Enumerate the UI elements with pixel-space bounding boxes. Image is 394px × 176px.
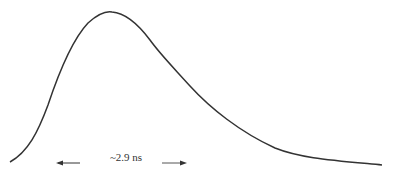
pulse-curve [10, 12, 382, 165]
pulse-curve-plot [0, 0, 394, 176]
right-arrow-icon [162, 161, 187, 166]
width-annotation-label: ~2.9 ns [96, 151, 156, 163]
pulse-chart: ~2.9 ns [0, 0, 394, 176]
left-arrow-icon [56, 161, 80, 166]
